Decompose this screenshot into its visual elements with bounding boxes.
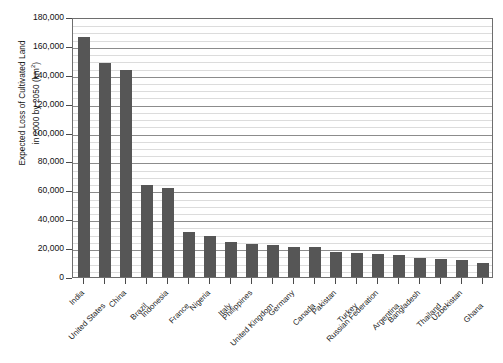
x-axis: IndiaUnited StatesChinaBrazilIndonesiaFr… xyxy=(0,0,503,363)
x-axis-tick xyxy=(209,278,210,284)
x-axis-tick xyxy=(104,278,105,284)
x-axis-tick xyxy=(461,278,462,284)
x-axis-tick xyxy=(125,278,126,284)
x-axis-tick xyxy=(356,278,357,284)
x-axis-tick xyxy=(188,278,189,284)
x-axis-tick xyxy=(419,278,420,284)
bar-chart: Expected Loss of Cultivated Land in 2000… xyxy=(0,0,503,363)
x-axis-tick xyxy=(482,278,483,284)
x-axis-tick xyxy=(377,278,378,284)
x-axis-tick-label: India xyxy=(0,288,86,363)
x-axis-tick xyxy=(293,278,294,284)
x-axis-tick xyxy=(335,278,336,284)
x-axis-tick xyxy=(440,278,441,284)
x-axis-tick xyxy=(272,278,273,284)
x-axis-tick xyxy=(230,278,231,284)
x-axis-tick xyxy=(167,278,168,284)
x-axis-tick xyxy=(83,278,84,284)
x-axis-tick xyxy=(314,278,315,284)
x-axis-tick xyxy=(251,278,252,284)
x-axis-tick xyxy=(398,278,399,284)
x-axis-tick xyxy=(146,278,147,284)
